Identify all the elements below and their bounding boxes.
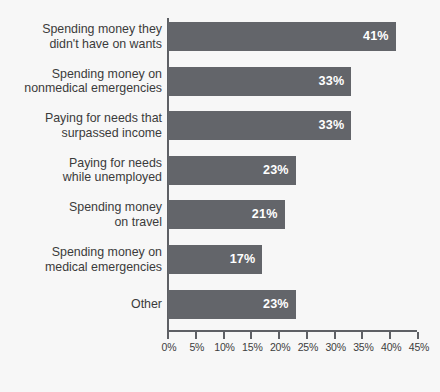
bar-row: Paying for needs that surpassed income33…: [0, 111, 440, 155]
bar-value-label: 33%: [319, 67, 345, 96]
bar: 21%: [168, 200, 285, 229]
category-label: Spending money on medical emergencies: [2, 245, 162, 274]
x-axis-tick: [167, 332, 169, 339]
bar: 23%: [168, 290, 296, 319]
category-label: Paying for needs that surpassed income: [2, 111, 162, 140]
x-axis-tick: [195, 332, 197, 339]
x-axis-tick: [389, 332, 391, 339]
bar-row: Spending money on travel21%: [0, 200, 440, 244]
x-axis-tick: [417, 332, 419, 339]
bar-value-label: 41%: [363, 22, 389, 51]
bar: 41%: [168, 22, 396, 51]
category-label: Other: [2, 297, 162, 311]
x-axis-tick: [278, 332, 280, 339]
bar-value-label: 21%: [252, 200, 278, 229]
bar-row: Paying for needs while unemployed23%: [0, 156, 440, 200]
bar-fill: [168, 22, 396, 51]
plot-area: Spending money they didn't have on wants…: [0, 0, 440, 392]
bar: 33%: [168, 111, 351, 140]
x-axis-tick: [361, 332, 363, 339]
x-axis-tick-label: 45%: [399, 341, 439, 353]
bar: 17%: [168, 245, 262, 274]
bar-chart: Spending money they didn't have on wants…: [0, 0, 440, 392]
x-axis-tick: [334, 332, 336, 339]
bar-row: Spending money on medical emergencies17%: [0, 245, 440, 289]
category-label: Spending money on travel: [2, 200, 162, 229]
category-label: Spending money on nonmedical emergencies: [2, 67, 162, 96]
category-label: Paying for needs while unemployed: [2, 156, 162, 185]
bar-value-label: 23%: [263, 290, 289, 319]
bar-row: Spending money on nonmedical emergencies…: [0, 67, 440, 111]
x-axis-tick: [250, 332, 252, 339]
bar: 23%: [168, 156, 296, 185]
bar-value-label: 17%: [230, 245, 256, 274]
bar-value-label: 23%: [263, 156, 289, 185]
category-label: Spending money they didn't have on wants: [2, 22, 162, 51]
x-axis-tick: [223, 332, 225, 339]
x-axis-tick: [306, 332, 308, 339]
bar-value-label: 33%: [319, 111, 345, 140]
bar: 33%: [168, 67, 351, 96]
bar-row: Other23%: [0, 290, 440, 334]
bar-row: Spending money they didn't have on wants…: [0, 22, 440, 66]
